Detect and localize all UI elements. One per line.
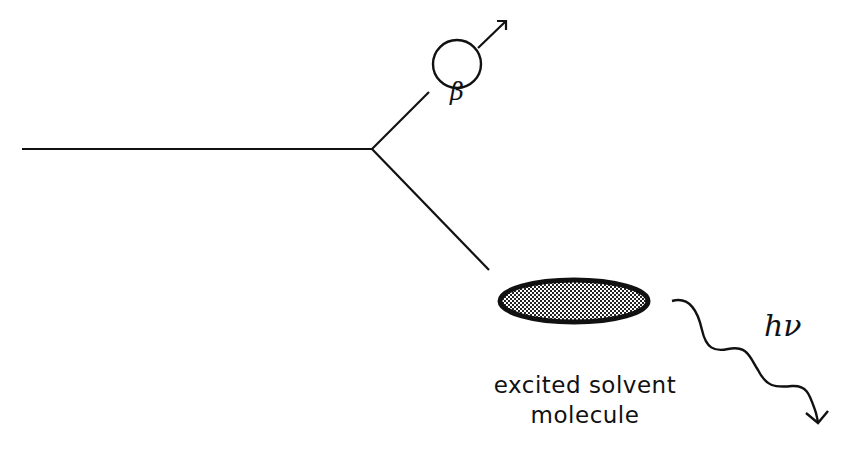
photon-energy-label: hν [764,308,802,343]
beta-particle-label: β [441,78,473,106]
excited-solvent-label: excited solvent molecule [470,370,700,430]
excited-solvent-label-line2: molecule [470,400,700,430]
beta-arrow-icon [478,21,506,48]
excited-solvent-molecule [500,280,648,322]
diagram-canvas [0,0,845,449]
solvent-track-line [372,149,489,270]
beta-track-line [372,92,429,149]
excited-solvent-label-line1: excited solvent [470,370,700,400]
